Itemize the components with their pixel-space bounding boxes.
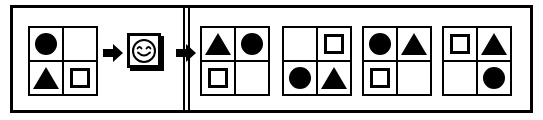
smiley-face-icon: [127, 33, 161, 68]
option-c-cell-top-left: [364, 28, 397, 61]
option-a[interactable]: [200, 26, 270, 96]
outlined-square-icon: [324, 34, 344, 54]
filled-triangle-icon: [401, 33, 427, 55]
filled-circle-icon: [35, 33, 57, 55]
option-d-cell-top-left: [444, 28, 477, 61]
puzzle-root: [0, 0, 543, 120]
option-b-cell-bottom-right: [317, 61, 350, 94]
filled-triangle-icon: [33, 67, 59, 89]
problem-cell-bottom-left: [30, 61, 63, 94]
problem-cell-bottom-right: [63, 61, 96, 94]
option-a-cell-bottom-right: [235, 61, 268, 94]
option-d-cell-bottom-left: [444, 61, 477, 94]
outlined-square-icon: [70, 68, 90, 88]
filled-circle-icon: [241, 33, 263, 55]
filled-triangle-icon: [205, 33, 231, 55]
problem-cell-top-right: [63, 28, 96, 61]
option-b-cell-top-left: [284, 28, 317, 61]
option-d-cell-top-right: [477, 28, 510, 61]
filled-circle-icon: [289, 67, 311, 89]
option-d[interactable]: [442, 26, 512, 96]
option-c-cell-top-right: [397, 28, 430, 61]
right-arrow-icon: [103, 44, 123, 62]
right-arrow-icon-2: [176, 44, 196, 62]
option-c-cell-bottom-left: [364, 61, 397, 94]
option-b-cell-bottom-left: [284, 61, 317, 94]
option-b[interactable]: [282, 26, 352, 96]
option-a-cell-bottom-left: [202, 61, 235, 94]
filled-circle-icon: [483, 67, 505, 89]
option-c-cell-bottom-right: [397, 61, 430, 94]
filled-triangle-icon: [321, 67, 347, 89]
outlined-square-icon: [208, 68, 228, 88]
option-a-cell-top-right: [235, 28, 268, 61]
filled-triangle-icon: [481, 33, 507, 55]
problem-cell-top-left: [30, 28, 63, 61]
outlined-square-icon: [450, 34, 470, 54]
option-c[interactable]: [362, 26, 432, 96]
option-a-cell-top-left: [202, 28, 235, 61]
option-d-cell-bottom-right: [477, 61, 510, 94]
option-b-cell-top-right: [317, 28, 350, 61]
outlined-square-icon: [370, 68, 390, 88]
filled-circle-icon: [369, 33, 391, 55]
problem-matrix: [28, 26, 98, 96]
